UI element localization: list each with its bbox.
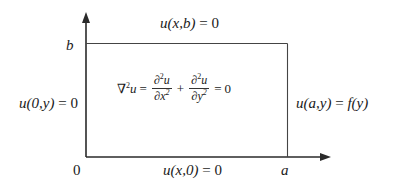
left-bc-equals: =: [58, 95, 66, 111]
left-boundary-condition: u(0,y) = 0: [19, 96, 78, 111]
x-end-label: a: [281, 163, 289, 178]
fraction-x-denominator: ∂x2: [152, 89, 171, 103]
equation-plus: +: [177, 81, 184, 97]
origin-label: 0: [73, 163, 81, 178]
fraction-y-numerator: ∂2u: [189, 74, 209, 89]
fraction-y-denominator: ∂y2: [190, 89, 209, 103]
top-bc-rhs: 0: [211, 15, 219, 31]
y-end-label: b: [66, 38, 74, 53]
nabla-variable: u: [130, 81, 137, 96]
top-bc-equals: =: [199, 15, 207, 31]
equation-equals-2: =: [214, 81, 221, 97]
top-bc-lhs: u(x,b): [160, 15, 195, 31]
top-boundary-condition: u(x,b) = 0: [160, 16, 219, 31]
bottom-bc-equals: =: [202, 162, 210, 178]
bottom-bc-lhs: u(x,0): [163, 162, 198, 178]
right-bc-lhs: u(a,y): [296, 95, 331, 111]
x-axis-arrow-icon: [320, 153, 331, 161]
laplace-equation: ∇2u = ∂2u ∂x2 + ∂2u ∂y2 = 0: [117, 74, 231, 103]
second-partial-x-fraction: ∂2u ∂x2: [152, 74, 172, 103]
right-bc-equals: =: [335, 95, 343, 111]
left-bc-rhs: 0: [70, 95, 78, 111]
right-bc-rhs: f(y): [347, 95, 368, 111]
y-axis-arrow-icon: [82, 12, 90, 23]
nabla-symbol: ∇: [117, 81, 126, 96]
bottom-boundary-condition: u(x,0) = 0: [163, 163, 222, 178]
second-partial-y-fraction: ∂2u ∂y2: [189, 74, 209, 103]
right-boundary-condition: u(a,y) = f(y): [296, 96, 368, 111]
fraction-x-numerator: ∂2u: [152, 74, 172, 89]
laplacian-operator: ∇2u: [117, 81, 137, 97]
equation-equals-1: =: [140, 81, 147, 97]
laplace-boundary-diagram: b 0 a u(x,b) = 0 u(0,y) = 0 u(x,0) = 0 u…: [0, 0, 393, 180]
equation-rhs: 0: [224, 81, 231, 97]
left-bc-lhs: u(0,y): [19, 95, 54, 111]
bottom-bc-rhs: 0: [214, 162, 222, 178]
